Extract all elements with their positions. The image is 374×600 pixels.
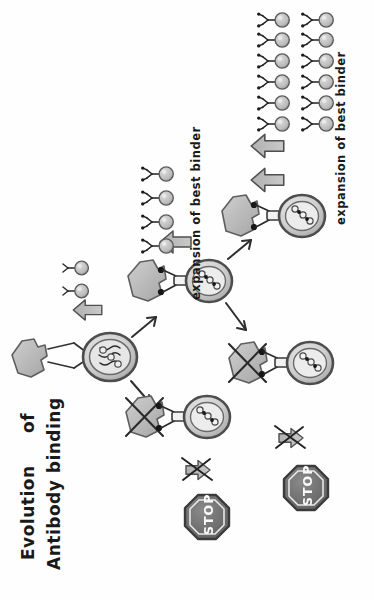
- branch-arrow-down-2: [226, 303, 246, 330]
- diagram-canvas: Evolution of Antibody binding: [0, 0, 374, 600]
- generation-1-cell-group: [12, 333, 137, 381]
- antigen-shape-gen1: [12, 339, 47, 377]
- label-expansion-2: expansion of best binder: [334, 51, 348, 225]
- clone-group-small: [63, 261, 88, 298]
- cell-gen1: [83, 333, 137, 381]
- label-expansion-1: expansion of best binder: [189, 126, 203, 300]
- cell-fail-2: [287, 342, 333, 384]
- title-line-2: of: [18, 413, 38, 433]
- cell-fail-1: [184, 396, 230, 438]
- clone-group-large: [257, 12, 333, 131]
- blocked-arrow-1: [182, 458, 212, 480]
- title-line-1: Evolution: [18, 465, 38, 560]
- stop-sign-lower-right: STOP: [284, 465, 328, 510]
- generation-3-fail-group: [229, 342, 333, 384]
- stop-label-1: STOP: [201, 494, 216, 535]
- branch-arrow-up: [132, 317, 156, 337]
- stop-sign-lower-left: STOP: [185, 494, 229, 539]
- clone-group-medium: [141, 166, 173, 253]
- page-title: Evolution of Antibody binding: [18, 397, 64, 570]
- branch-arrow-up-2: [228, 240, 251, 259]
- generation-2-fail-group: [126, 396, 230, 438]
- title-line-3: Antibody binding: [44, 397, 64, 570]
- cell-gen3: [279, 195, 325, 237]
- stop-label-2: STOP: [300, 465, 315, 506]
- blocked-arrow-2: [275, 426, 305, 448]
- generation-3-success-group: [222, 195, 325, 237]
- expansion-arrow-double: [251, 134, 284, 191]
- expansion-arrow-gen1: [73, 300, 102, 320]
- hand-drawn-antibody-evolution-figure: Evolution of Antibody binding: [0, 0, 374, 600]
- generation-2-success-group: [128, 260, 232, 302]
